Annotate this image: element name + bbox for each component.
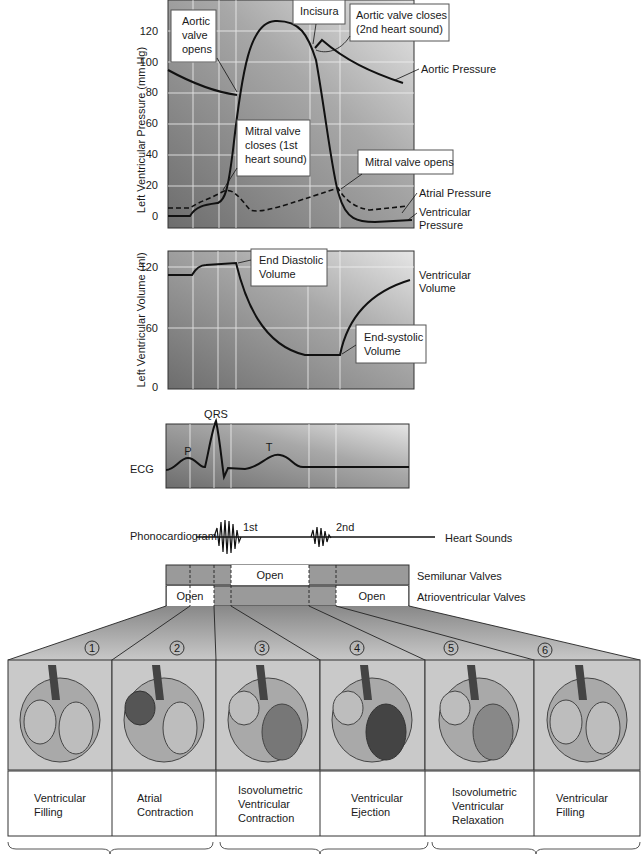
cardiac-cycle-diagram: Left Ventricular Pressure (mm Hg) 0 20 4…: [0, 0, 642, 858]
phase-label: Filling: [556, 806, 585, 818]
phase-number: 2: [174, 642, 180, 654]
av-open-right-label: Open: [359, 590, 386, 602]
heart-panel-3: [216, 660, 320, 770]
phase-label: Contraction: [137, 806, 193, 818]
phase-number: 3: [259, 642, 265, 654]
ytick: 20: [146, 179, 158, 191]
annotation-text: End Diastolic: [259, 254, 324, 266]
ytick: 100: [140, 56, 158, 68]
first-sound-label: 1st: [243, 521, 258, 533]
second-sound-label: 2nd: [336, 521, 354, 533]
heart-sounds-label: Heart Sounds: [445, 532, 513, 544]
ventricular-volume-label: Ventricular: [419, 269, 471, 281]
atrial-pressure-label: Atrial Pressure: [419, 187, 491, 199]
av-open-left-label: Open: [177, 590, 204, 602]
phase-label: Filling: [34, 806, 63, 818]
ytick: 40: [146, 148, 158, 160]
phase-number: 6: [542, 644, 548, 656]
phase-label: Ventricular: [452, 800, 504, 812]
phase-label: Relaxation: [452, 814, 504, 826]
annotation-text: Incisura: [300, 5, 339, 17]
annotation-text: (2nd heart sound): [356, 23, 443, 35]
ytick: 120: [140, 261, 158, 273]
heart-panels: [8, 660, 640, 770]
annotation-text: Mitral valve opens: [365, 156, 454, 168]
annotation-text: End-systolic: [364, 331, 424, 343]
annotation-text: Volume: [364, 345, 401, 357]
heart-panel-5: [425, 660, 534, 770]
phase-label: Ventricular: [556, 792, 608, 804]
phase-number: 1: [89, 642, 95, 654]
ecg-t-label: T: [266, 441, 273, 453]
annotation-text: Volume: [259, 268, 296, 280]
ecg-label: ECG: [130, 463, 154, 475]
annotation-text: Aortic valve closes: [356, 9, 448, 21]
phase-label: Isovolumetric: [238, 784, 303, 796]
heart-panel-6: [534, 660, 640, 770]
ytick: 60: [146, 322, 158, 334]
av-valves-label: Atrioventricular Valves: [417, 591, 526, 603]
ytick: 0: [152, 381, 158, 393]
phase-label: Atrial: [137, 792, 162, 804]
phono-label: Phonocardiogram: [130, 530, 217, 542]
semilunar-open-label: Open: [257, 569, 284, 581]
ventricular-volume-label: Volume: [419, 282, 456, 294]
ytick: 80: [146, 86, 158, 98]
ventricular-pressure-label: Ventricular: [419, 206, 471, 218]
annotation-text: closes (1st: [245, 139, 298, 151]
heart-panel-4: [320, 660, 425, 770]
valve-status-bars: Open Open Open Semilunar Valves Atrioven…: [166, 565, 526, 606]
ecg-strip: ECG P QRS T: [130, 408, 409, 488]
phase-label: Ventricular: [351, 792, 403, 804]
phase-label: Ventricular: [34, 792, 86, 804]
phase-label-table: Ventricular Filling Atrial Contraction I…: [8, 771, 640, 836]
pressure-chart: Left Ventricular Pressure (mm Hg) 0 20 4…: [135, 0, 496, 231]
annotation-text: Mitral valve: [245, 125, 301, 137]
semilunar-valves-label: Semilunar Valves: [417, 570, 502, 582]
heart-panel-1: [8, 660, 112, 770]
phase-number: 4: [354, 642, 360, 654]
phase-label: Contraction: [238, 812, 294, 824]
ytick: 0: [152, 210, 158, 222]
annotation-text: opens: [182, 43, 212, 55]
volume-chart: Left Ventricular Volume (ml) 0 60 120 En…: [135, 249, 471, 393]
phase-group-braces: [8, 842, 640, 854]
phonocardiogram: Phonocardiogram 1st 2nd Heart Sounds: [130, 520, 513, 554]
phase-label: Isovolumetric: [452, 786, 517, 798]
ytick: 60: [146, 117, 158, 129]
aortic-pressure-label: Aortic Pressure: [421, 63, 496, 75]
phase-number: 5: [448, 642, 454, 654]
ytick: 120: [140, 25, 158, 37]
heart-panel-2: [112, 660, 216, 770]
annotation-text: heart sound): [245, 153, 307, 165]
ecg-qrs-label: QRS: [204, 408, 228, 420]
annotation-text: valve: [182, 29, 208, 41]
ecg-p-label: P: [184, 445, 191, 457]
phase-label: Ejection: [351, 806, 390, 818]
annotation-text: Aortic: [182, 15, 211, 27]
phase-label: Ventricular: [238, 798, 290, 810]
ventricular-pressure-label: Pressure: [419, 219, 463, 231]
